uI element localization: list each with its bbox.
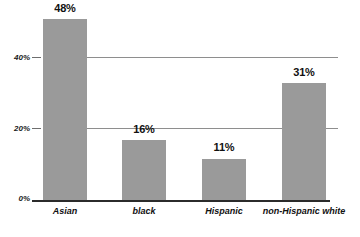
bar-value-non-hispanic-white: 31%	[274, 66, 334, 78]
right-tick-20	[330, 128, 338, 129]
bar-value-black: 16%	[114, 123, 174, 135]
y-axis-label-0: 0%	[0, 194, 30, 203]
y-axis-label-40: 40%	[0, 53, 30, 62]
x-axis-baseline	[32, 200, 330, 202]
bar-non-hispanic-white[interactable]	[282, 83, 326, 200]
y-tick-mark-40	[32, 57, 41, 58]
y-axis-label-20: 20%	[0, 124, 30, 133]
bar-value-hispanic: 11%	[194, 141, 254, 153]
bar-asian[interactable]	[43, 19, 87, 200]
bar-hispanic[interactable]	[202, 159, 246, 201]
bar-black[interactable]	[122, 140, 166, 200]
bar-chart: 40% 20% 0% 48% 16% 11% 31% Asian black H…	[0, 0, 360, 237]
category-label-black: black	[114, 206, 174, 216]
y-tick-mark-20	[32, 128, 41, 129]
category-label-hispanic: Hispanic	[194, 206, 254, 216]
category-label-non-hispanic-white: non-Hispanic white	[249, 206, 359, 216]
bar-value-asian: 48%	[35, 2, 95, 14]
plot-area	[43, 0, 330, 200]
category-label-asian: Asian	[35, 206, 95, 216]
right-tick-40	[330, 57, 338, 58]
